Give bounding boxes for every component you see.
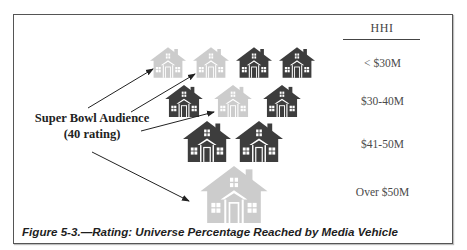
figure-caption: Figure 5-3.—Rating: Universe Percentage … (22, 225, 452, 238)
arrow-to-row1-house2 (131, 74, 195, 112)
audience-arrows (0, 0, 467, 250)
arrow-to-row4-house1 (92, 152, 189, 201)
arrow-to-row1-house1 (88, 69, 153, 108)
arrow-to-row2-house2 (141, 112, 214, 131)
